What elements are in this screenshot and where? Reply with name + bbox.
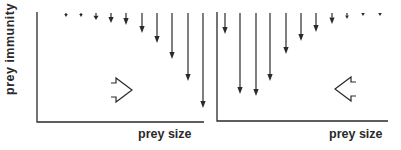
- arrow-down-icon: [345, 15, 349, 19]
- arrow-down-icon: [154, 36, 159, 43]
- axes: [217, 12, 388, 121]
- arrow-down-icon: [298, 34, 303, 41]
- arrow-down-icon: [313, 25, 318, 32]
- axes: [37, 12, 204, 122]
- arrow-down-icon: [123, 18, 128, 25]
- left-panel: [37, 12, 206, 122]
- right-panel: [217, 12, 388, 121]
- arrow-down-icon: [200, 101, 205, 108]
- arrow-down-icon: [139, 26, 144, 33]
- arrow-down-icon: [108, 17, 113, 23]
- arrow-down-icon: [361, 13, 365, 16]
- arrow-down-icon: [378, 13, 382, 16]
- arrow-down-icon: [185, 74, 190, 81]
- arrow-down-icon: [253, 89, 258, 96]
- arrow-down-icon: [329, 17, 334, 24]
- shift-right-arrow-icon: [335, 77, 356, 101]
- arrow-down-icon: [64, 14, 68, 17]
- arrow-down-icon: [237, 87, 242, 94]
- x-axis-label-left: prey size: [138, 127, 192, 141]
- arrow-down-icon: [222, 27, 227, 34]
- arrow-down-icon: [93, 16, 98, 20]
- y-axis-label: prey immunity: [3, 3, 17, 95]
- x-axis-label-right: prey size: [329, 127, 383, 141]
- arrow-down-icon: [79, 14, 83, 17]
- arrow-down-icon: [267, 74, 272, 81]
- arrow-down-icon: [169, 52, 174, 59]
- arrow-down-icon: [283, 47, 288, 54]
- shift-left-arrow-icon: [111, 78, 132, 102]
